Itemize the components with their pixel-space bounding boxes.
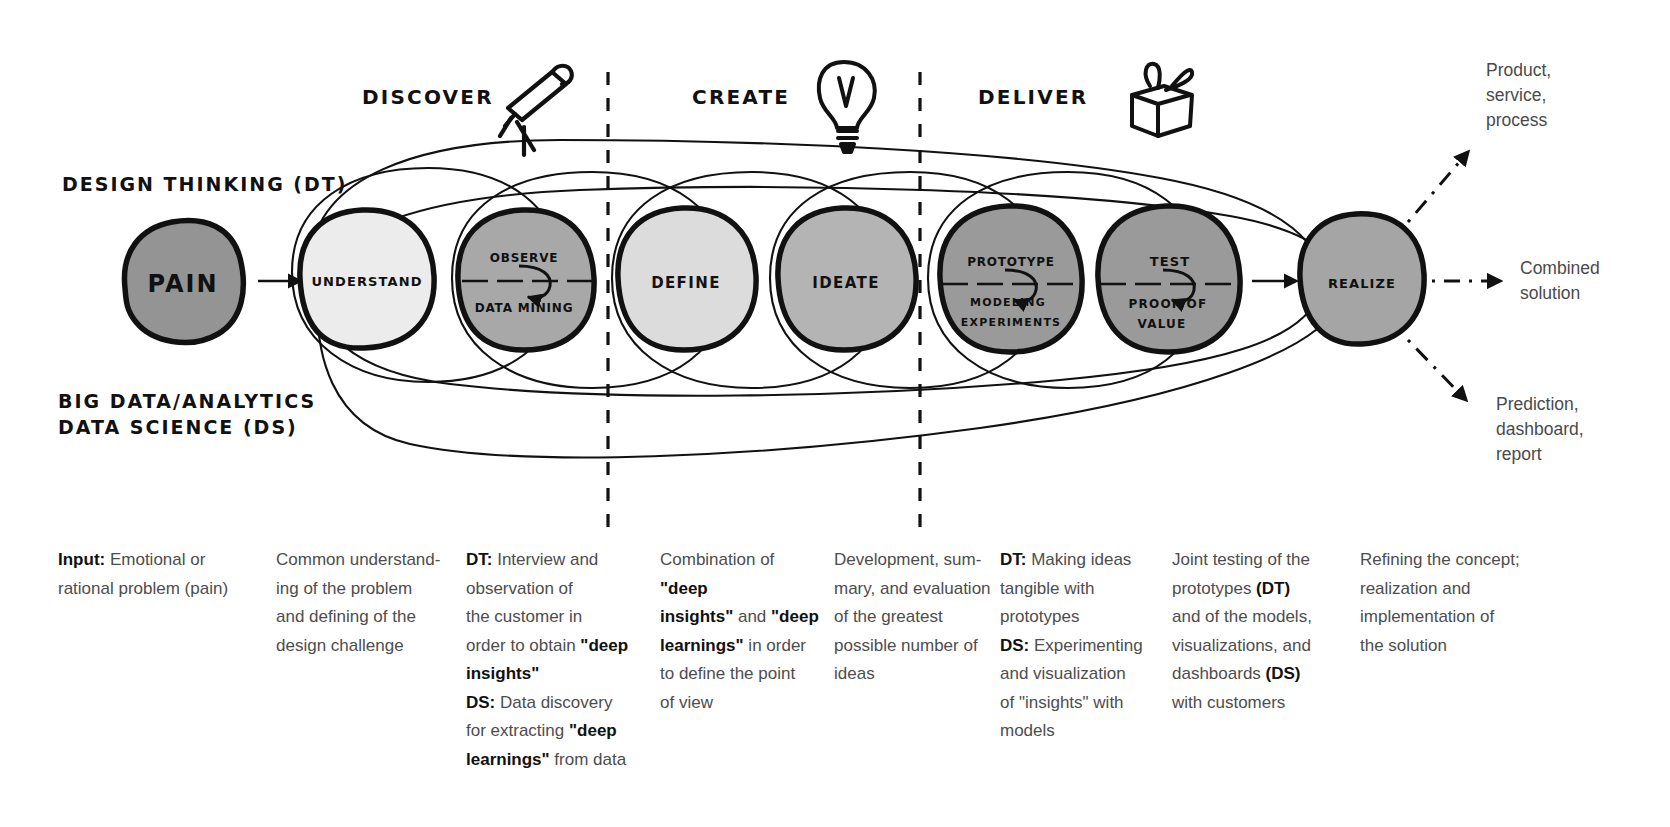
phase-label-create: CREATE (692, 85, 790, 109)
column-input: Input: Emotional orrational problem (pai… (58, 546, 258, 603)
node-test-label-top: TEST (1150, 254, 1190, 269)
node-realize-label: REALIZE (1328, 276, 1396, 291)
output-prediction-line-2: dashboard, (1496, 417, 1584, 442)
node-observe-label-bottom: DATA MINING (475, 301, 574, 315)
label-data-science: DATA SCIENCE (DS) (58, 416, 298, 438)
output-product-line-1: Product, (1486, 58, 1551, 83)
node-prototype-label-top: PROTOTYPE (967, 255, 1055, 269)
output-combined-line-1: Combined (1520, 256, 1600, 281)
output-label-prediction: Prediction, dashboard, report (1496, 392, 1584, 467)
node-test-label-bottom-1: PROOF OF (1129, 297, 1208, 311)
label-big-data-analytics: BIG DATA/ANALYTICS (58, 390, 316, 412)
node-observe-label-top: OBSERVE (490, 251, 559, 265)
node-prototype-shape (940, 206, 1082, 352)
node-prototype-label-bottom-1: MODELING (970, 296, 1046, 309)
lightbulb-icon (819, 62, 875, 152)
node-pain-label: PAIN (148, 270, 219, 298)
output-product-line-2: service, (1486, 83, 1551, 108)
column-test: Joint testing of theprototypes (DT)and o… (1172, 546, 1350, 717)
phase-label-deliver: DELIVER (978, 85, 1088, 109)
node-test-label-bottom-2: VALUE (1138, 317, 1187, 331)
node-ideate-label: IDEATE (812, 274, 880, 292)
output-prediction-line-1: Prediction, (1496, 392, 1584, 417)
column-understand: Common understand-ing of the problemand … (276, 546, 454, 660)
diagram-canvas: PAIN UNDERSTAND OBSERVE DATA MINING DEFI… (0, 0, 1670, 827)
column-prototype: DT: Making ideastangible withprototypesD… (1000, 546, 1172, 746)
column-realize: Refining the concept;realization andimpl… (1360, 546, 1560, 660)
output-label-product: Product, service, process (1486, 58, 1551, 133)
output-prediction-line-3: report (1496, 442, 1584, 467)
gift-icon (1132, 64, 1192, 136)
node-understand-label: UNDERSTAND (311, 274, 422, 289)
output-product-line-3: process (1486, 108, 1551, 133)
output-combined-line-2: solution (1520, 281, 1600, 306)
output-label-combined: Combined solution (1520, 256, 1600, 306)
arrow-realize-to-product (1408, 152, 1468, 222)
arrow-realize-to-prediction (1408, 340, 1466, 400)
diagram-artwork: PAIN UNDERSTAND OBSERVE DATA MINING DEFI… (0, 0, 1670, 827)
node-prototype-label-bottom-2: EXPERIMENTS (961, 316, 1061, 329)
column-ideate: Development, sum-mary, and evaluationof … (834, 546, 1004, 689)
column-observe: DT: Interview andobservation ofthe custo… (466, 546, 644, 774)
phase-label-discover: DISCOVER (362, 85, 494, 109)
label-design-thinking: DESIGN THINKING (DT) (62, 173, 347, 195)
column-define: Combination of "deepinsights" and "deepl… (660, 546, 822, 717)
node-define-label: DEFINE (651, 274, 721, 292)
